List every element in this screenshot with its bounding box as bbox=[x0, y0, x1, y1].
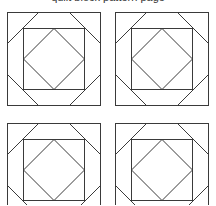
quilt-block-bottom-left bbox=[8, 124, 101, 206]
outer-square bbox=[8, 13, 101, 106]
inner-diamond bbox=[24, 140, 85, 201]
inner-square bbox=[132, 29, 193, 90]
quilt-block-bottom-right bbox=[116, 124, 209, 206]
quilt-block-top-right bbox=[116, 13, 209, 106]
inner-diamond bbox=[24, 29, 85, 90]
inner-diamond bbox=[132, 140, 193, 201]
quilt-block-top-left bbox=[8, 13, 101, 106]
inner-diamond bbox=[132, 29, 193, 90]
diagram-canvas: quilt block pattern page bbox=[0, 0, 216, 205]
outer-square bbox=[8, 124, 101, 206]
inner-square bbox=[132, 140, 193, 201]
inner-square bbox=[24, 140, 85, 201]
outer-square bbox=[116, 13, 209, 106]
inner-square bbox=[24, 29, 85, 90]
outer-square bbox=[116, 124, 209, 206]
quilt-blocks-svg bbox=[0, 0, 216, 205]
